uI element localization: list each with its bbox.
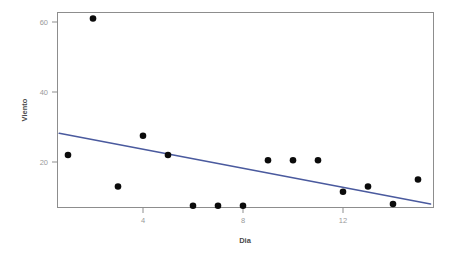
y-tick-label-20: 20 — [40, 158, 48, 167]
plot-canvas: 20 40 60 4 8 12 Dia Viento — [0, 0, 455, 255]
y-tick-label-40: 40 — [40, 88, 48, 97]
x-axis-title: Dia — [239, 236, 252, 245]
data-point — [240, 202, 247, 209]
data-point — [215, 202, 222, 209]
x-tick-label-4: 4 — [141, 216, 145, 225]
y-axis-title: Viento — [20, 98, 29, 121]
data-point — [365, 183, 372, 190]
data-point — [265, 157, 272, 164]
data-point — [315, 157, 322, 164]
figure-background — [0, 0, 455, 255]
data-point — [340, 188, 347, 195]
data-point — [65, 152, 72, 159]
scatter-plot-figure: 20 40 60 4 8 12 Dia Viento — [0, 0, 455, 255]
data-point — [165, 152, 172, 159]
x-tick-label-12: 12 — [339, 216, 347, 225]
data-point — [90, 15, 97, 22]
data-point — [390, 201, 397, 208]
x-tick-label-8: 8 — [241, 216, 245, 225]
data-point — [115, 183, 122, 190]
data-point — [140, 132, 147, 139]
data-point — [190, 202, 197, 209]
y-tick-label-60: 60 — [40, 18, 48, 27]
data-point — [290, 157, 297, 164]
data-point — [415, 176, 422, 183]
